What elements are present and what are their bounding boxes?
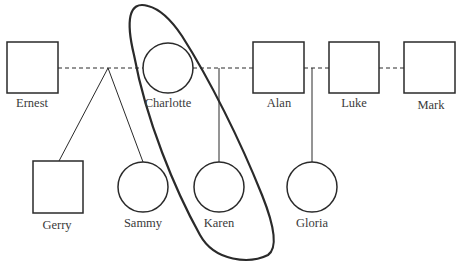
luke-label: Luke <box>341 96 367 110</box>
sammy-label: Sammy <box>124 216 163 230</box>
charlotte-label: Charlotte <box>145 96 192 110</box>
genogram-diagram: Ernest Charlotte Alan Luke Mark Gerry Sa… <box>0 0 464 271</box>
ernest-square <box>7 42 58 93</box>
charlotte-circle <box>143 43 193 93</box>
child-line-gerry <box>59 68 108 161</box>
mark-square <box>404 42 455 93</box>
child-line-sammy <box>108 68 143 162</box>
gloria-label: Gloria <box>296 216 328 230</box>
luke-square <box>329 42 379 93</box>
mark-label: Mark <box>417 98 445 112</box>
alan-label: Alan <box>267 96 292 110</box>
ernest-label: Ernest <box>16 96 48 110</box>
sammy-circle <box>118 162 168 212</box>
alan-square <box>253 42 304 93</box>
gloria-circle <box>287 162 337 212</box>
karen-label: Karen <box>204 216 235 230</box>
gerry-square <box>33 161 83 213</box>
karen-circle <box>194 162 244 212</box>
gerry-label: Gerry <box>42 218 72 232</box>
